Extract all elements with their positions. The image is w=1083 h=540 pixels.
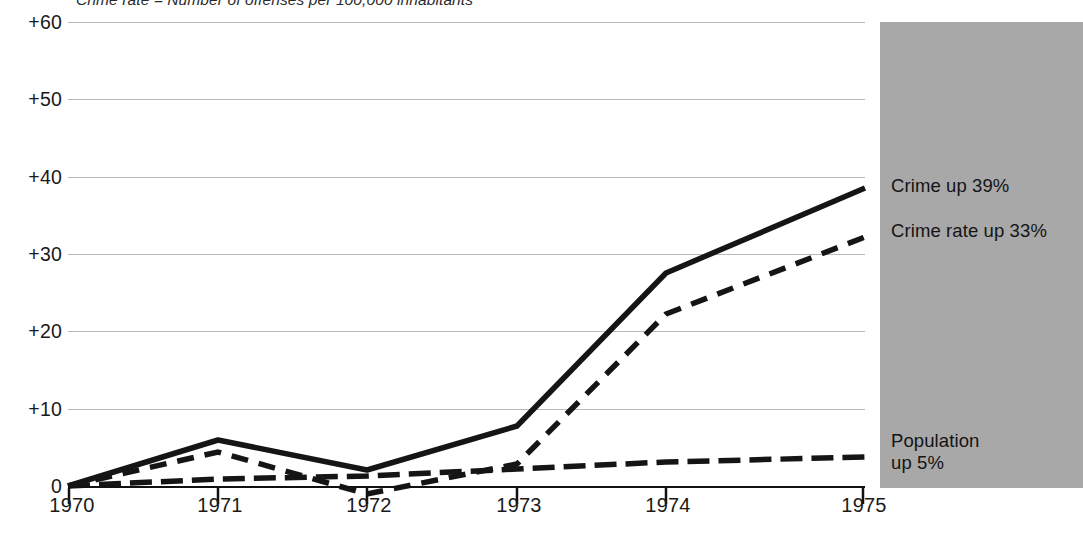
plot-area [68, 22, 865, 486]
series-crime-rate-line [68, 237, 865, 494]
y-axis-labels: +60 +50 +40 +30 +20 +10 0 [0, 22, 62, 486]
y-tick-20: +20 [28, 320, 62, 343]
y-tick-40: +40 [28, 165, 62, 188]
legend-label-population-line2: up 5% [891, 452, 944, 474]
y-tick-10: +10 [28, 397, 62, 420]
legend-label-crime: Crime up 39% [891, 175, 1009, 197]
x-axis-ticks [68, 488, 865, 506]
series-crime-line [68, 188, 865, 486]
legend-label-crime-rate: Crime rate up 33% [891, 220, 1047, 242]
x-tick-1971: 1971 [197, 494, 242, 517]
x-tick-1973: 1973 [496, 494, 541, 517]
y-tick-60: +60 [28, 11, 62, 34]
series-lines [68, 22, 865, 522]
x-tick-1975: 1975 [841, 494, 886, 517]
x-tick-1970: 1970 [49, 494, 94, 517]
legend-panel: Crime up 39% Crime rate up 33% Populatio… [880, 22, 1083, 488]
legend-label-population-line1: Population [891, 430, 979, 452]
x-tick-1972: 1972 [346, 494, 391, 517]
y-tick-50: +50 [28, 88, 62, 111]
chart-caption: Crime rate = Number of offenses per 100,… [76, 0, 473, 9]
x-tick-1974: 1974 [645, 494, 690, 517]
chart-figure: Crime rate = Number of offenses per 100,… [0, 0, 1083, 540]
y-tick-30: +30 [28, 243, 62, 266]
